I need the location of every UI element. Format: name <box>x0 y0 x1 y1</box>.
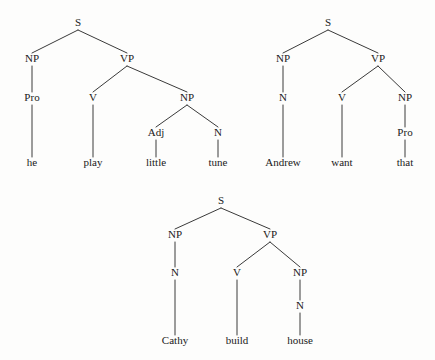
tree-branch <box>328 30 378 53</box>
tree-node-adj: Adj <box>148 126 165 138</box>
tree-node-pro: Pro <box>24 91 40 103</box>
tree-leaf-he: he <box>27 156 38 168</box>
tree-node-s: S <box>325 16 331 28</box>
tree-branch <box>187 105 218 127</box>
tree-nodes-layer: SNPVPProVNPAdjNheplaylittletuneSNPVPNVNP… <box>24 16 413 346</box>
tree-node-vp: VP <box>263 228 277 240</box>
tree-branch <box>378 66 405 92</box>
tree-branch <box>156 105 187 127</box>
tree-branch <box>237 242 270 267</box>
tree-leaf-little: little <box>146 156 166 168</box>
syntax-tree-diagram: SNPVPProVNPAdjNheplaylittletuneSNPVPNVNP… <box>0 0 435 360</box>
tree-node-s: S <box>75 16 81 28</box>
tree-node-pro: Pro <box>397 126 413 138</box>
tree-node-np: NP <box>168 228 182 240</box>
tree-branch <box>78 30 127 53</box>
tree-node-n: N <box>279 91 287 103</box>
tree-node-v: V <box>338 91 346 103</box>
tree-branch <box>270 242 300 267</box>
tree-branch <box>283 30 328 53</box>
tree-branch <box>342 66 378 92</box>
tree-leaf-want: want <box>331 156 352 168</box>
tree-node-vp: VP <box>120 52 134 64</box>
tree-leaf-tune: tune <box>209 156 228 168</box>
tree-branch <box>175 208 221 229</box>
tree-branches-layer <box>32 30 405 335</box>
diagram-canvas: SNPVPProVNPAdjNheplaylittletuneSNPVPNVNP… <box>0 0 435 360</box>
tree-node-np: NP <box>276 52 290 64</box>
tree-node-v: V <box>233 266 241 278</box>
tree-node-n: N <box>171 266 179 278</box>
tree-nodes-tree-1: SNPVPProVNPAdjNheplaylittletune <box>24 16 227 168</box>
tree-node-np: NP <box>25 52 39 64</box>
tree-branch <box>221 208 270 229</box>
tree-branch <box>127 66 187 92</box>
tree-node-n: N <box>214 126 222 138</box>
tree-nodes-tree-2: SNPVPNVNPProAndrewwantthat <box>265 16 413 168</box>
tree-leaf-that: that <box>397 156 414 168</box>
tree-node-vp: VP <box>371 52 385 64</box>
tree-node-np: NP <box>293 266 307 278</box>
tree-node-n: N <box>296 299 304 311</box>
tree-node-np: NP <box>180 91 194 103</box>
tree-branch <box>93 66 127 92</box>
tree-leaf-build: build <box>226 334 249 346</box>
tree-leaf-andrew: Andrew <box>265 156 300 168</box>
tree-node-np: NP <box>398 91 412 103</box>
tree-leaf-play: play <box>84 156 103 168</box>
tree-branch <box>32 30 78 53</box>
tree-leaf-house: house <box>287 334 313 346</box>
tree-node-v: V <box>89 91 97 103</box>
tree-node-s: S <box>218 194 224 206</box>
tree-leaf-cathy: Cathy <box>162 334 189 346</box>
